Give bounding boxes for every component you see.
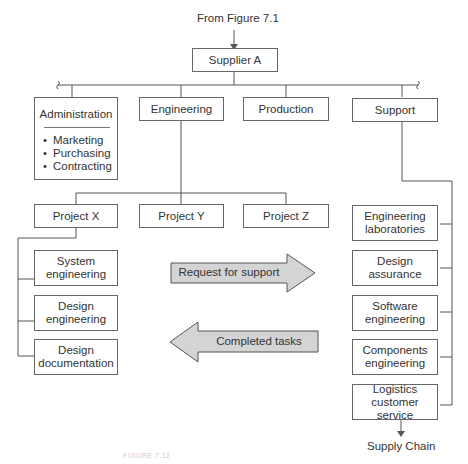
supply-chain-label: Supply Chain [367, 440, 435, 452]
box-label: Design [58, 300, 94, 313]
box-label: engineering [46, 313, 106, 326]
design-documentation-box: Design documentation [34, 339, 118, 375]
engineering-laboratories-box: Engineering laboratories [352, 205, 438, 241]
project-x-box: Project X [34, 204, 118, 228]
box-label: customer service [353, 396, 437, 422]
box-label: engineering [46, 268, 106, 281]
box-label: documentation [38, 357, 113, 370]
request-arrow-label: Request for support [176, 266, 282, 278]
box-label: laboratories [365, 223, 425, 236]
design-engineering-box: Design engineering [34, 295, 118, 331]
support-box: Support [352, 98, 438, 122]
box-label: System [57, 255, 95, 268]
supplier-box: Supplier A [192, 48, 278, 72]
project-y-box: Project Y [139, 204, 224, 228]
box-label: Logistics [373, 383, 418, 396]
engineering-box: Engineering [139, 97, 224, 121]
administration-title: Administration [35, 108, 117, 121]
figure-caption: FIGURE 7.12 [123, 452, 171, 459]
administration-list: Marketing Purchasing Contracting [35, 134, 112, 173]
production-box: Production [243, 97, 329, 121]
divider [44, 127, 110, 128]
box-label: Design [377, 255, 413, 268]
project-z-box: Project Z [243, 204, 329, 228]
completed-arrow-label: Completed tasks [205, 335, 313, 347]
list-item: Contracting [43, 160, 112, 173]
box-label: engineering [365, 313, 425, 326]
components-engineering-box: Components engineering [352, 339, 438, 375]
list-item: Purchasing [43, 147, 112, 160]
administration-box: Administration Marketing Purchasing Cont… [34, 97, 118, 180]
box-label: Software [372, 300, 417, 313]
source-label: From Figure 7.1 [197, 12, 279, 24]
arrowhead-icon [397, 431, 405, 437]
software-engineering-box: Software engineering [352, 295, 438, 331]
box-label: Engineering [364, 210, 425, 223]
logistics-customer-service-box: Logistics customer service [352, 384, 438, 420]
box-label: Design [58, 344, 94, 357]
system-engineering-box: System engineering [34, 250, 118, 286]
box-label: assurance [368, 268, 421, 281]
list-item: Marketing [43, 134, 112, 147]
box-label: Components [362, 344, 427, 357]
design-assurance-box: Design assurance [352, 250, 438, 286]
box-label: engineering [365, 357, 425, 370]
